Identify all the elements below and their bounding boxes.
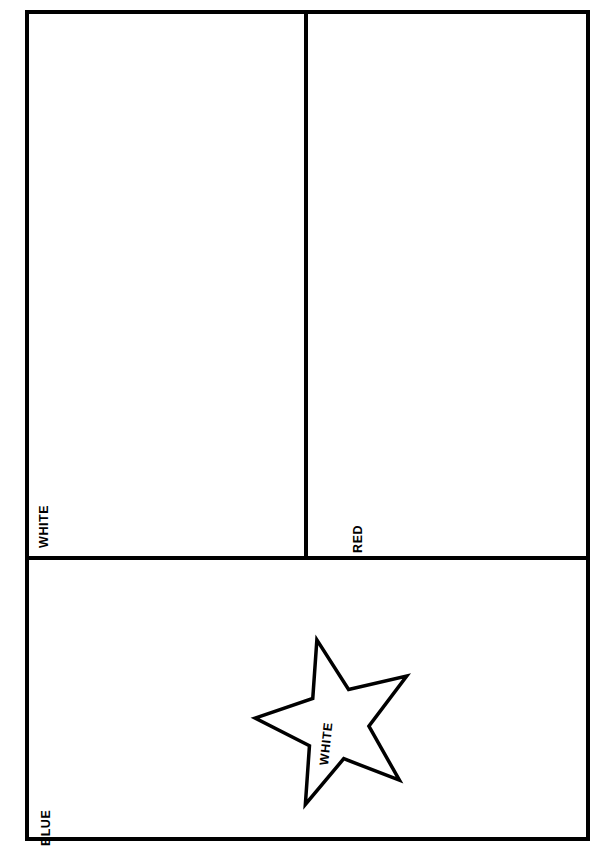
flag-outer-frame: WHITE RED BLUE WHITE <box>25 10 590 841</box>
star-group[interactable]: WHITE <box>247 632 419 810</box>
diagram-canvas: WHITE RED BLUE WHITE <box>0 0 606 863</box>
panel-red-field[interactable] <box>308 14 586 556</box>
panel-label-white: WHITE <box>37 505 51 548</box>
panel-white-field[interactable] <box>29 14 304 556</box>
star-icon <box>247 632 419 810</box>
panel-label-blue: BLUE <box>39 810 53 846</box>
divider-horizontal <box>29 556 586 560</box>
divider-vertical <box>304 14 308 560</box>
panel-label-red: RED <box>351 525 365 553</box>
